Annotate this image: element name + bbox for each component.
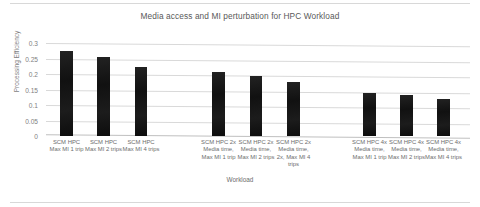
bar[interactable] [250,76,262,136]
scanned-page: Media access and MI perturbation for HPC… [0,0,480,207]
y-axis-tick-label: 0.25 [25,55,38,62]
chart-title: Media access and MI perturbation for HPC… [0,11,480,21]
bar[interactable] [60,51,73,136]
y-axis-tick-label: 0.15 [25,86,38,93]
x-axis-tick-label: SCM HPC Max MI 1 trip [48,139,86,154]
plot-area [46,43,470,136]
bar[interactable] [212,72,225,136]
y-axis-tick-label: 0.1 [29,102,38,109]
x-axis-tick-label: SCM HPC 2x Media time, Max MI 1 trip [200,139,238,161]
bar[interactable] [287,82,300,136]
bar[interactable] [437,99,450,136]
x-axis-tick-label: SCM HPC Max MI 2 trips [85,139,123,154]
y-axis-tick-label: 0 [34,133,38,140]
gridline [46,43,470,47]
x-axis-tick-label: SCM HPC 2x Media time, Max MI 2 trips [237,139,275,161]
bar[interactable] [400,95,413,136]
x-axis-tick-label: SCM HPC 2x Media time, 2x, Max MI 4 trip… [275,139,313,169]
y-axis-tick-label: 0.05 [25,117,38,124]
bar[interactable] [363,93,376,136]
bar[interactable] [97,57,110,136]
x-axis-tick-label: SCM HPC 4x Media time, Max MI 2 trips [388,139,426,161]
y-axis-tick-labels: 0.30.250.20.150.10.050 [0,43,42,136]
bar-chart: Media access and MI perturbation for HPC… [0,0,480,207]
bar[interactable] [135,67,147,136]
x-axis-tick-label: SCM HPC Max MI 4 trips [122,139,160,154]
y-axis-tick-label: 0.3 [29,40,38,47]
y-axis-tick-label: 0.2 [29,71,38,78]
x-axis-tick-label: SCM HPC 4x Media time, Max MI 4 trips [425,139,463,161]
x-axis-title: Workload [0,176,480,183]
x-axis-tick-label: SCM HPC 4x Media time, Max MI 1 trip [351,139,389,161]
